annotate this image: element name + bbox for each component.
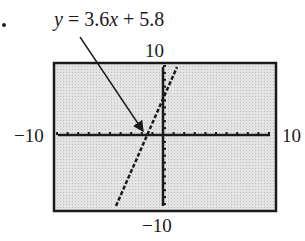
graph-screen [54, 63, 276, 211]
calculator-graph [0, 0, 305, 241]
